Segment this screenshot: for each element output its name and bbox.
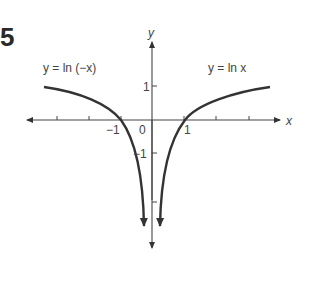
origin-label: 0 xyxy=(139,123,146,137)
y-axis xyxy=(152,42,157,248)
y-tick-neg1: −1 xyxy=(133,147,147,161)
curve-ln-x xyxy=(160,87,270,226)
y-axis-label: y xyxy=(147,26,155,40)
log-graph: y = ln (−x) y = ln x y x −1 0 1 1 −1 xyxy=(0,0,309,296)
x-tick-neg1: −1 xyxy=(106,123,120,137)
y-tick-pos1: 1 xyxy=(143,80,150,94)
x-tick-pos1: 1 xyxy=(184,123,191,137)
x-axis-label: x xyxy=(285,114,293,128)
x-axis xyxy=(27,116,280,120)
left-curve-label: y = ln (−x) xyxy=(43,61,96,75)
curve-ln-neg-x xyxy=(44,87,144,226)
right-curve-label: y = ln x xyxy=(208,61,246,75)
